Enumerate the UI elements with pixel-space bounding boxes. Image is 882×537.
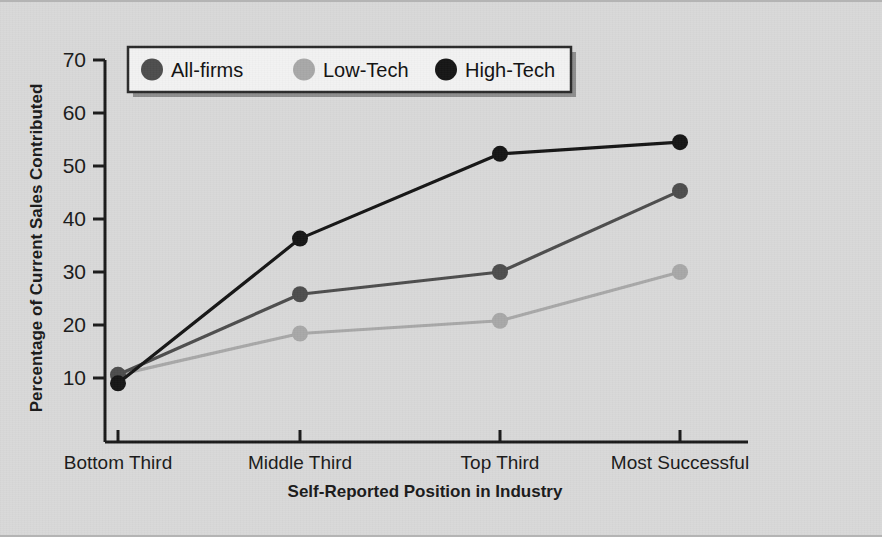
legend-marker-icon xyxy=(293,59,315,81)
legend-item-all-firms: All-firms xyxy=(141,59,243,81)
y-tick-label: 50 xyxy=(63,154,86,177)
legend-item-high-tech: High-Tech xyxy=(435,59,555,81)
data-point xyxy=(110,375,126,391)
y-tick-labels: 10203040506070 xyxy=(63,48,86,389)
series-line xyxy=(118,272,680,375)
y-tick-label: 60 xyxy=(63,101,86,124)
series-high-tech xyxy=(110,134,688,391)
legend-marker-icon xyxy=(141,59,163,81)
data-point xyxy=(292,286,308,302)
legend-label: Low-Tech xyxy=(323,59,409,81)
data-point xyxy=(292,231,308,247)
legend-item-low-tech: Low-Tech xyxy=(293,59,409,81)
x-tick-labels: Bottom ThirdMiddle ThirdTop ThirdMost Su… xyxy=(64,452,749,473)
y-tick-label: 70 xyxy=(63,48,86,71)
line-chart: Percentage of Current Sales Contributed … xyxy=(0,2,882,537)
x-tick-label: Bottom Third xyxy=(64,452,172,473)
series-line xyxy=(118,191,680,375)
legend-marker-icon xyxy=(435,59,457,81)
y-axis-title: Percentage of Current Sales Contributed xyxy=(27,84,46,413)
data-point xyxy=(492,264,508,280)
y-tick-label: 40 xyxy=(63,207,86,230)
data-point xyxy=(492,146,508,162)
series-line xyxy=(118,142,680,383)
data-point xyxy=(672,183,688,199)
y-tick-label: 20 xyxy=(63,313,86,336)
legend-label: High-Tech xyxy=(465,59,555,81)
data-point xyxy=(492,313,508,329)
data-point xyxy=(672,134,688,150)
y-tick-label: 30 xyxy=(63,260,86,283)
chart-legend: All-firmsLow-TechHigh-Tech xyxy=(128,47,576,97)
series-all-firms xyxy=(110,183,688,383)
axes xyxy=(105,60,748,442)
data-point xyxy=(292,325,308,341)
figure-panel: Percentage of Current Sales Contributed … xyxy=(0,0,882,537)
data-series xyxy=(110,134,688,391)
axis-ticks xyxy=(93,60,680,442)
x-tick-label: Most Successful xyxy=(611,452,749,473)
data-point xyxy=(672,264,688,280)
x-tick-label: Middle Third xyxy=(248,452,352,473)
x-tick-label: Top Third xyxy=(461,452,540,473)
legend-label: All-firms xyxy=(171,59,243,81)
y-tick-label: 10 xyxy=(63,366,86,389)
x-axis-title: Self-Reported Position in Industry xyxy=(288,482,563,501)
